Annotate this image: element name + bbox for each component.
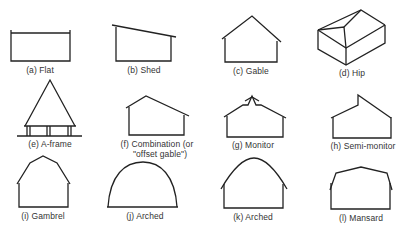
arched-roof-drawing-j [107, 162, 178, 207]
label-combination-line2: "offset gable") [133, 150, 187, 160]
label-gable: (c) Gable [233, 67, 269, 77]
semi-monitor-roof-drawing [331, 95, 391, 138]
hip-roof-drawing [318, 10, 385, 65]
label-a-frame: (e) A-frame [28, 140, 72, 150]
label-monitor: (g) Monitor [232, 141, 274, 151]
monitor-roof-drawing [224, 96, 286, 137]
label-mansard: (l) Mansard [339, 214, 383, 224]
mansard-roof-drawing [330, 167, 392, 209]
label-arched-j: (j) Arched [126, 212, 163, 222]
label-arched-k: (k) Arched [233, 213, 273, 223]
shed-roof-drawing [112, 25, 176, 61]
label-semi-monitor: (h) Semi-monitor [331, 142, 396, 152]
arched-roof-drawing-k [221, 158, 287, 208]
label-flat: (a) Flat [26, 66, 54, 76]
label-shed: (b) Shed [127, 66, 160, 76]
combination-roof-drawing [126, 96, 189, 135]
gable-roof-drawing [222, 16, 281, 62]
gambrel-roof-drawing [17, 156, 70, 207]
label-hip: (d) Hip [339, 69, 365, 79]
flat-roof-drawing [11, 30, 70, 61]
label-gambrel: (i) Gambrel [21, 212, 65, 222]
a-frame-roof-drawing [17, 80, 82, 136]
roof-shapes-diagram [0, 0, 408, 233]
